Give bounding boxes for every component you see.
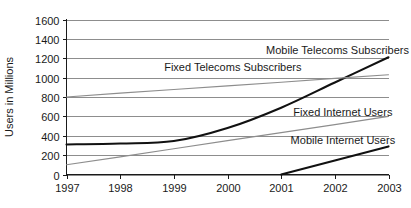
x-tick-label: 2000 <box>216 182 240 194</box>
x-axis-group: 1997199819992000200120022003 <box>55 175 401 194</box>
y-tick-label: 800 <box>41 92 59 104</box>
y-tick-label: 1200 <box>35 53 59 65</box>
chart-container: 02004006008001000120014001600 1997199819… <box>0 0 411 208</box>
series-line-3 <box>281 146 388 174</box>
x-tick-label: 2002 <box>323 182 347 194</box>
line-chart: 02004006008001000120014001600 1997199819… <box>0 0 411 208</box>
x-tick-label: 2003 <box>377 182 401 194</box>
axis-titles-group: Users in Millions <box>3 56 15 137</box>
y-axis-group: 02004006008001000120014001600 <box>35 15 66 182</box>
y-tick-label: 1600 <box>35 15 59 27</box>
x-tick-label: 1997 <box>55 182 79 194</box>
y-axis-title: Users in Millions <box>3 56 15 137</box>
y-tick-label: 0 <box>53 170 59 182</box>
series-label-3: Mobile Internet Users <box>291 134 396 146</box>
series-label-2: Fixed Internet Users <box>293 106 393 118</box>
series-label-0: Mobile Telecoms Subscribers <box>266 44 409 56</box>
x-tick-label: 2001 <box>269 182 293 194</box>
y-tick-label: 200 <box>41 150 59 162</box>
y-tick-label: 1000 <box>35 73 59 85</box>
y-tick-label: 1400 <box>35 34 59 46</box>
series-label-1: Fixed Telecoms Subscribers <box>164 61 302 73</box>
x-tick-label: 1998 <box>108 182 132 194</box>
x-tick-label: 1999 <box>162 182 186 194</box>
y-tick-label: 600 <box>41 111 59 123</box>
y-tick-label: 400 <box>41 131 59 143</box>
